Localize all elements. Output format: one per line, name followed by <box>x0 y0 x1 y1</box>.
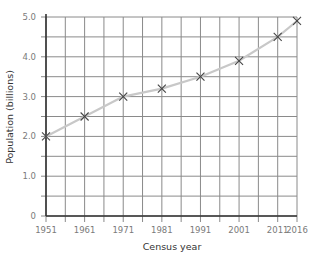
x-tick-label: 1961 <box>74 225 96 235</box>
x-axis-title: Census year <box>143 241 202 252</box>
x-tick-label: 2001 <box>228 225 250 235</box>
x-tick-label: 2016 <box>286 225 308 235</box>
y-tick-label: 4.0 <box>22 52 36 62</box>
x-axis-tick-labels: 19511961197119811991200120112016 <box>35 225 308 235</box>
y-tick-label: 5.0 <box>22 12 36 22</box>
y-axis-title: Population (billions) <box>4 70 15 164</box>
x-tick-label: 1971 <box>112 225 134 235</box>
y-tick-label: 1.0 <box>22 171 36 181</box>
y-tick-label: 2.0 <box>22 131 36 141</box>
population-line-chart: 01.02.03.04.05.0 19511961197119811991200… <box>0 0 311 258</box>
x-tick-label: 1981 <box>151 225 173 235</box>
y-tick-label: 3.0 <box>22 92 36 102</box>
y-axis-tick-labels: 01.02.03.04.05.0 <box>22 12 36 221</box>
population-series-line <box>46 21 297 136</box>
data-point-markers <box>42 17 301 140</box>
x-tick-label: 1951 <box>35 225 57 235</box>
x-tick-label: 1991 <box>190 225 212 235</box>
y-tick-label: 0 <box>31 211 36 221</box>
